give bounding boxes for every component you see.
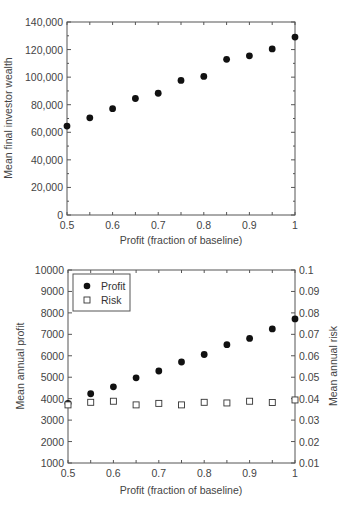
x-tick-label: 0.6 (106, 467, 121, 479)
y-tick-label: 7000 (41, 328, 65, 340)
profit-point (87, 390, 94, 397)
profit-point (132, 95, 139, 102)
risk-point (269, 400, 275, 406)
profit-point (155, 90, 162, 97)
risk-point (65, 402, 71, 408)
y-right-tick-label: 0.02 (299, 436, 320, 448)
y-right-tick-label: 0.09 (299, 285, 320, 297)
profit-point (155, 368, 162, 375)
data-points (64, 34, 299, 130)
x-tick-label: 0.5 (61, 467, 76, 479)
risk-point (224, 400, 230, 406)
profit-point (133, 374, 140, 381)
profit-point (223, 56, 230, 63)
risk-point (156, 400, 162, 406)
y-tick-label: 20,000 (31, 181, 63, 193)
x-tick-label: 0.6 (105, 219, 120, 231)
risk-point (292, 397, 298, 403)
y-tick-label: 3000 (41, 414, 65, 426)
legend-label-profit: Profit (101, 280, 126, 292)
profit-point (292, 34, 299, 41)
figure: 020,00040,00060,00080,000100,000120,0001… (0, 0, 351, 507)
y-tick-label: 5000 (41, 371, 65, 383)
profit-point (246, 335, 253, 342)
legend: Profit Risk (73, 274, 130, 311)
y-right-tick-label: 0.07 (299, 328, 320, 340)
x-tick-label: 1 (292, 467, 298, 479)
y-tick-label: 40,000 (31, 154, 63, 166)
profit-point (109, 105, 116, 112)
x-tick-label: 0.8 (197, 467, 212, 479)
x-tick-label: 0.5 (60, 219, 75, 231)
x-axis-label: Profit (fraction of baseline) (120, 234, 243, 246)
risk-legend-marker (84, 297, 90, 303)
y-right-tick-label: 0.1 (299, 264, 314, 276)
profit-point (178, 77, 185, 84)
x-tick-label: 0.8 (196, 219, 211, 231)
data-points (65, 315, 299, 407)
y-tick-label: 6000 (41, 350, 65, 362)
y-axis-label: Mean annual profit (14, 322, 26, 409)
profit-point (86, 114, 93, 121)
y-right-tick-label: 0.01 (299, 457, 320, 469)
profit-point (178, 359, 185, 366)
risk-point (133, 402, 139, 408)
y-axis-ticks: 020,00040,00060,00080,000100,000120,0001… (25, 16, 295, 221)
profit-point (292, 315, 299, 322)
y-right-tick-label: 0.08 (299, 307, 320, 319)
x-axis-ticks: 0.50.60.70.80.91 (60, 22, 298, 231)
y-tick-label: 9000 (41, 285, 65, 297)
y-tick-label: 120,000 (25, 44, 63, 56)
y-right-tick-label: 0.05 (299, 371, 320, 383)
y-tick-label: 2000 (41, 436, 65, 448)
profit-point (246, 52, 253, 59)
y-tick-label: 80,000 (31, 99, 63, 111)
profit-point (201, 351, 208, 358)
y-tick-label: 8000 (41, 307, 65, 319)
x-tick-label: 0.9 (242, 219, 257, 231)
profit-point (269, 45, 276, 52)
y-right-tick-label: 0.03 (299, 414, 320, 426)
x-tick-label: 0.7 (151, 467, 166, 479)
y-tick-label: 140,000 (25, 16, 63, 28)
y-tick-label: 10000 (35, 264, 64, 276)
risk-point (88, 399, 94, 405)
plot-frame (67, 22, 295, 215)
profit-point (224, 341, 231, 348)
y-tick-label: 100,000 (25, 71, 63, 83)
y-tick-label: 60,000 (31, 126, 63, 138)
risk-point (201, 399, 207, 405)
x-tick-label: 1 (292, 219, 298, 231)
y-right-tick-label: 0.04 (299, 393, 320, 405)
x-axis-label: Profit (fraction of baseline) (120, 484, 243, 496)
y-tick-label: 4000 (41, 393, 65, 405)
profit-legend-marker (84, 283, 91, 290)
risk-point (247, 398, 253, 404)
y-right-tick-label: 0.06 (299, 350, 320, 362)
y-axis-ticks: 1000200030004000500060007000800090001000… (35, 264, 72, 469)
wealth-chart: 020,00040,00060,00080,000100,000120,0001… (2, 16, 298, 246)
profit-point (110, 383, 117, 390)
x-tick-label: 0.9 (242, 467, 257, 479)
profit-point (269, 326, 276, 333)
y-axis-label: Mean final investor wealth (2, 57, 14, 179)
profit-point (200, 73, 207, 80)
legend-label-risk: Risk (101, 294, 122, 306)
x-tick-label: 0.7 (151, 219, 166, 231)
risk-point (179, 402, 185, 408)
y-axis-right-label: Mean annual risk (327, 325, 339, 406)
risk-point (110, 398, 116, 404)
profit-risk-chart: 1000200030004000500060007000800090001000… (14, 264, 339, 496)
profit-point (64, 123, 71, 130)
